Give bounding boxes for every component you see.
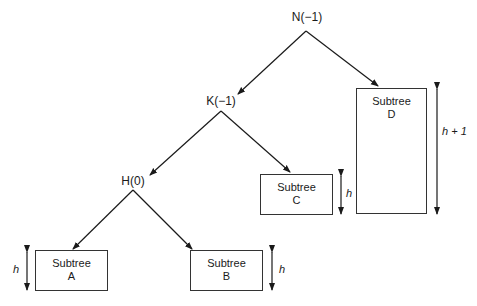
edge-h-b bbox=[133, 190, 192, 249]
subtree-b-title: Subtree bbox=[191, 257, 262, 270]
subtree-c-box: Subtree C bbox=[260, 174, 333, 215]
node-k: K(−1) bbox=[206, 94, 236, 108]
edge-n-d bbox=[306, 31, 378, 86]
node-n: N(−1) bbox=[292, 10, 322, 24]
height-label-c: h bbox=[346, 187, 352, 199]
subtree-a-name: A bbox=[36, 270, 107, 283]
node-h: H(0) bbox=[121, 174, 144, 188]
subtree-a-title: Subtree bbox=[36, 257, 107, 270]
subtree-d-name: D bbox=[357, 108, 426, 121]
subtree-a-box: Subtree A bbox=[35, 250, 108, 291]
edge-n-k bbox=[238, 31, 306, 94]
subtree-c-title: Subtree bbox=[261, 181, 332, 194]
subtree-b-box: Subtree B bbox=[190, 250, 263, 291]
edge-h-a bbox=[73, 190, 133, 249]
subtree-b-name: B bbox=[191, 270, 262, 283]
subtree-c-name: C bbox=[261, 194, 332, 207]
subtree-d-title: Subtree bbox=[357, 95, 426, 108]
height-label-b: h bbox=[279, 263, 285, 275]
edge-k-c bbox=[221, 111, 290, 172]
height-label-d: h + 1 bbox=[442, 125, 467, 137]
subtree-d-box: Subtree D bbox=[356, 88, 427, 214]
height-label-a: h bbox=[13, 263, 19, 275]
edge-k-h bbox=[150, 111, 221, 175]
